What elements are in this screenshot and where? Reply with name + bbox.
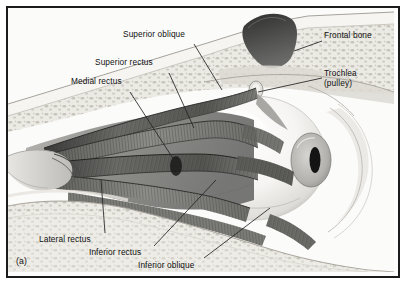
label-superior-oblique: Superior oblique [123, 29, 185, 39]
label-inferior-oblique: Inferior oblique [138, 260, 195, 270]
label-superior-rectus: Superior rectus [95, 57, 153, 67]
orbit-anatomy-illustration [8, 8, 394, 272]
pupil [310, 147, 321, 173]
figure-part-label: (a) [16, 256, 27, 266]
label-frontal-bone: Frontal bone [324, 30, 372, 40]
illustration-plate: Superior oblique Superior rectus Medial … [6, 6, 400, 278]
cornea [291, 133, 331, 187]
label-inferior-rectus: Inferior rectus [89, 247, 141, 257]
label-medial-rectus: Medial rectus [71, 76, 122, 86]
label-lateral-rectus: Lateral rectus [39, 234, 91, 244]
label-trochlea: Trochlea [324, 68, 357, 78]
figure-container: Superior oblique Superior rectus Medial … [0, 0, 404, 281]
label-trochlea-pulley: (pulley) [324, 78, 352, 88]
